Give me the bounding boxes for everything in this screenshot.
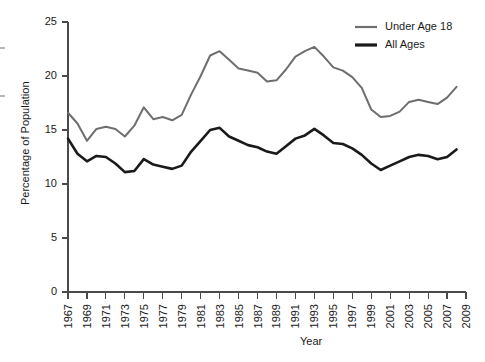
legend-label-0: Under Age 18 xyxy=(385,20,452,32)
chart-figure: 0510152025 19671969197119731975197719791… xyxy=(0,0,485,362)
x-tick-label: 1981 xyxy=(195,304,207,328)
y-axis-title: Percentage of Population xyxy=(19,81,31,205)
x-tick-label: 1993 xyxy=(308,304,320,328)
series-lines xyxy=(68,47,457,172)
x-axis-title: Year xyxy=(300,335,323,347)
x-tick-label: 1967 xyxy=(62,304,74,328)
scan-artifact xyxy=(0,95,5,97)
legend-label-1: All Ages xyxy=(385,38,425,50)
x-tick-label: 2007 xyxy=(441,304,453,328)
x-tick-label: 1995 xyxy=(327,304,339,328)
x-tick-label: 1973 xyxy=(119,304,131,328)
x-axis: 1967196919711973197519771979198119831985… xyxy=(62,292,472,328)
x-tick-label: 1989 xyxy=(270,304,282,328)
y-tick-label: 25 xyxy=(45,15,57,27)
x-tick-label: 1979 xyxy=(176,304,188,328)
x-tick-label: 1997 xyxy=(346,304,358,328)
x-tick-label: 1991 xyxy=(289,304,301,328)
line-chart: 0510152025 19671969197119731975197719791… xyxy=(0,0,485,362)
chart-legend: Under Age 18All Ages xyxy=(355,20,452,50)
scan-artifact xyxy=(0,47,5,49)
x-tick-label: 2003 xyxy=(403,304,415,328)
x-tick-label: 1985 xyxy=(233,304,245,328)
x-tick-label: 1977 xyxy=(157,304,169,328)
y-tick-label: 20 xyxy=(45,69,57,81)
x-tick-label: 1983 xyxy=(214,304,226,328)
x-tick-label: 1987 xyxy=(252,304,264,328)
y-tick-label: 5 xyxy=(51,231,57,243)
y-tick-label: 0 xyxy=(51,285,57,297)
x-tick-label: 1969 xyxy=(81,304,93,328)
y-tick-label: 10 xyxy=(45,177,57,189)
x-tick-label: 2009 xyxy=(460,304,472,328)
x-tick-label: 1971 xyxy=(100,304,112,328)
x-tick-label: 2005 xyxy=(422,304,434,328)
x-tick-label: 2001 xyxy=(384,304,396,328)
series-line-0 xyxy=(68,47,457,141)
x-tick-label: 1975 xyxy=(138,304,150,328)
x-tick-label: 1999 xyxy=(365,304,377,328)
y-tick-label: 15 xyxy=(45,123,57,135)
y-axis: 0510152025 xyxy=(45,15,68,297)
